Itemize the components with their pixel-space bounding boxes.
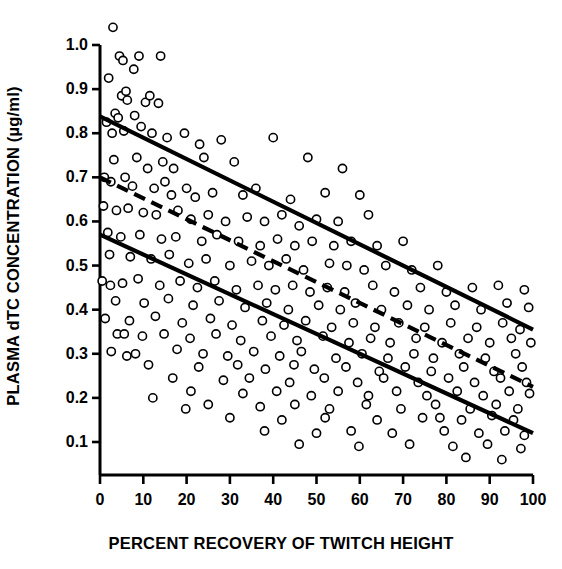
data-point bbox=[325, 259, 333, 267]
data-point bbox=[221, 217, 229, 225]
data-point bbox=[291, 400, 299, 408]
data-point bbox=[286, 195, 294, 203]
data-point bbox=[373, 416, 381, 424]
data-point bbox=[315, 301, 323, 309]
data-point bbox=[139, 209, 147, 217]
data-point bbox=[416, 284, 424, 292]
data-point bbox=[367, 334, 375, 342]
data-point bbox=[397, 405, 405, 413]
data-point bbox=[149, 394, 157, 402]
data-point bbox=[328, 323, 336, 331]
data-point bbox=[393, 387, 401, 395]
data-point bbox=[148, 129, 156, 137]
data-point bbox=[434, 261, 442, 269]
data-point bbox=[371, 323, 379, 331]
data-point bbox=[135, 52, 143, 60]
data-point bbox=[200, 153, 208, 161]
data-point bbox=[291, 242, 299, 250]
data-point bbox=[380, 374, 388, 382]
data-point bbox=[123, 352, 131, 360]
data-point bbox=[308, 237, 316, 245]
data-point bbox=[98, 277, 106, 285]
data-point bbox=[421, 323, 429, 331]
data-point bbox=[297, 347, 305, 355]
data-point bbox=[125, 317, 133, 325]
data-point bbox=[507, 334, 515, 342]
data-point bbox=[299, 266, 307, 274]
data-point bbox=[406, 440, 414, 448]
data-point bbox=[226, 414, 234, 422]
data-point bbox=[195, 363, 203, 371]
data-point bbox=[226, 261, 234, 269]
y-tick-label: 0.3 bbox=[32, 345, 88, 363]
data-point bbox=[451, 301, 459, 309]
data-point bbox=[479, 392, 487, 400]
data-point bbox=[492, 400, 500, 408]
data-point bbox=[133, 153, 141, 161]
data-point bbox=[440, 427, 448, 435]
data-point bbox=[195, 140, 203, 148]
data-point bbox=[170, 164, 178, 172]
data-point bbox=[144, 361, 152, 369]
data-point bbox=[276, 352, 284, 360]
scatter-plot-figure: 0.10.20.30.40.50.60.70.80.91.0 010203040… bbox=[0, 0, 562, 569]
data-point bbox=[386, 339, 394, 347]
data-point bbox=[206, 314, 214, 322]
data-point bbox=[204, 400, 212, 408]
data-point bbox=[163, 134, 171, 142]
data-point bbox=[355, 442, 363, 450]
data-point bbox=[247, 257, 255, 265]
data-point bbox=[130, 65, 138, 73]
data-point bbox=[449, 442, 457, 450]
data-point bbox=[146, 92, 154, 100]
data-point bbox=[496, 374, 504, 382]
x-tick-label: 70 bbox=[394, 491, 412, 509]
data-point bbox=[120, 330, 128, 338]
data-point bbox=[457, 416, 465, 424]
data-point bbox=[178, 319, 186, 327]
data-point bbox=[501, 427, 509, 435]
data-point bbox=[499, 319, 507, 327]
x-tick-label: 20 bbox=[178, 491, 196, 509]
data-point bbox=[384, 354, 392, 362]
x-tick-label: 100 bbox=[520, 491, 547, 509]
data-point bbox=[321, 414, 329, 422]
data-point bbox=[108, 129, 116, 137]
data-point bbox=[134, 275, 142, 283]
data-point bbox=[527, 339, 535, 347]
y-tick-label: 0.7 bbox=[32, 168, 88, 186]
data-point bbox=[176, 277, 184, 285]
data-point bbox=[204, 211, 212, 219]
tick-marks bbox=[92, 45, 533, 484]
data-point bbox=[101, 314, 109, 322]
data-point bbox=[399, 237, 407, 245]
data-point bbox=[122, 87, 130, 95]
data-point bbox=[199, 350, 207, 358]
data-point bbox=[304, 153, 312, 161]
y-tick-label: 0.6 bbox=[32, 212, 88, 230]
data-point bbox=[161, 178, 169, 186]
data-point bbox=[307, 392, 315, 400]
data-point bbox=[117, 233, 125, 241]
data-point bbox=[198, 237, 206, 245]
x-tick-label: 10 bbox=[134, 491, 152, 509]
data-point bbox=[464, 334, 472, 342]
data-point bbox=[473, 323, 481, 331]
y-axis-title: PLASMA dTC CONCENTRATION (µg/ml) bbox=[4, 6, 34, 486]
data-point bbox=[403, 301, 411, 309]
data-point bbox=[517, 445, 525, 453]
data-point bbox=[364, 392, 372, 400]
x-axis-title: PERCENT RECOVERY OF TWITCH HEIGHT bbox=[0, 534, 562, 553]
data-point bbox=[273, 235, 281, 243]
data-point bbox=[401, 363, 409, 371]
data-point bbox=[107, 347, 115, 355]
data-point-layer bbox=[98, 23, 535, 463]
data-point bbox=[427, 367, 435, 375]
data-point bbox=[152, 211, 160, 219]
data-point bbox=[444, 374, 452, 382]
data-point bbox=[182, 405, 190, 413]
x-tick-label: 50 bbox=[308, 491, 326, 509]
data-point bbox=[343, 261, 351, 269]
data-point bbox=[131, 111, 139, 119]
data-point bbox=[138, 332, 146, 340]
